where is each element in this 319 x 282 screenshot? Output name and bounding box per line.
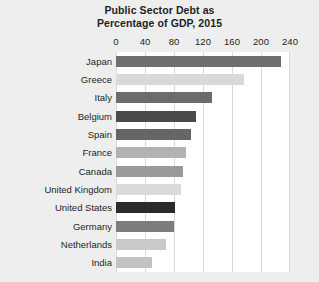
category-label-germany: Germany bbox=[0, 221, 112, 232]
category-label-greece: Greece bbox=[0, 74, 112, 85]
category-label-united-states: United States bbox=[0, 202, 112, 213]
x-tick-label: 200 bbox=[253, 36, 269, 47]
x-tick-label: 160 bbox=[224, 36, 240, 47]
category-label-netherlands: Netherlands bbox=[0, 239, 112, 250]
category-label-france: France bbox=[0, 147, 112, 158]
bar bbox=[116, 56, 281, 67]
chart-title-line-2: Percentage of GDP, 2015 bbox=[0, 17, 319, 30]
x-axis-tick-labels: 04080120160200240 bbox=[116, 36, 290, 50]
bar-series bbox=[116, 52, 290, 272]
bar bbox=[116, 184, 181, 195]
bar bbox=[116, 74, 244, 85]
x-tick-label: 40 bbox=[140, 36, 151, 47]
y-axis-category-labels: JapanGreeceItalyBelgiumSpainFranceCanada… bbox=[0, 52, 112, 272]
bar bbox=[116, 221, 174, 232]
category-label-belgium: Belgium bbox=[0, 111, 112, 122]
x-tick-label: 0 bbox=[113, 36, 118, 47]
chart-title: Public Sector Debt as Percentage of GDP,… bbox=[0, 4, 319, 29]
bar bbox=[116, 166, 183, 177]
category-label-japan: Japan bbox=[0, 56, 112, 67]
plot-area bbox=[116, 52, 290, 272]
bar bbox=[116, 147, 186, 158]
x-tick-label: 80 bbox=[169, 36, 180, 47]
bar bbox=[116, 92, 212, 103]
x-tick-label: 240 bbox=[282, 36, 298, 47]
category-label-canada: Canada bbox=[0, 166, 112, 177]
chart-title-line-1: Public Sector Debt as bbox=[0, 4, 319, 17]
category-label-italy: Italy bbox=[0, 92, 112, 103]
bar bbox=[116, 111, 196, 122]
category-label-united-kingdom: United Kingdom bbox=[0, 184, 112, 195]
x-tick-label: 120 bbox=[195, 36, 211, 47]
category-label-spain: Spain bbox=[0, 129, 112, 140]
bar bbox=[116, 257, 152, 268]
category-label-india: India bbox=[0, 257, 112, 268]
bar bbox=[116, 239, 166, 250]
bar-chart-figure: Public Sector Debt as Percentage of GDP,… bbox=[0, 0, 319, 282]
bar bbox=[116, 202, 175, 213]
bar bbox=[116, 129, 191, 140]
